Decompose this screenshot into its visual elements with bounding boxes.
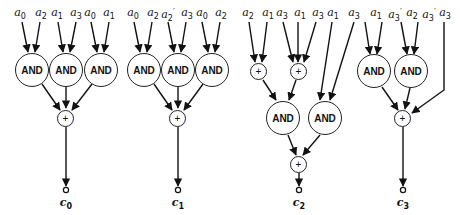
input-label: a3′ — [422, 6, 435, 23]
input-label: a2 — [406, 6, 418, 21]
and-gate: AND — [49, 53, 83, 87]
input-label: a3′ — [388, 6, 401, 23]
xor-gate: + — [169, 110, 186, 127]
input-label: a2 — [35, 6, 47, 21]
input-label: a3 — [348, 6, 360, 21]
input-label: a0 — [84, 6, 96, 21]
input-label: a1 — [370, 6, 382, 21]
and-gate: AND — [357, 54, 391, 88]
input-label: a1 — [327, 6, 339, 21]
and-gate: AND — [308, 101, 342, 135]
input-label: a1 — [262, 6, 274, 21]
input-label: a3 — [439, 6, 451, 21]
input-label: a3 — [70, 6, 82, 21]
xor-gate: + — [290, 63, 307, 80]
input-label: a2 — [242, 6, 254, 21]
input-label: a3 — [276, 6, 288, 21]
and-gate: AND — [15, 53, 49, 87]
input-label: a0 — [127, 6, 139, 21]
input-label: a1 — [103, 6, 115, 21]
input-label: a1 — [294, 6, 306, 21]
and-gate: AND — [127, 53, 161, 87]
and-gate: AND — [195, 53, 229, 87]
output-label: c2 — [293, 196, 305, 211]
logic-diagram: a0 a2 a1 a3 a0 a1 a0 a2 a2′ a3 a0 a2 a2 … — [0, 0, 460, 215]
xor-gate: + — [250, 63, 267, 80]
input-label: a2 — [147, 6, 159, 21]
input-label: a2′ — [161, 6, 174, 23]
output-label: c3 — [397, 196, 409, 211]
input-label: a0 — [14, 6, 26, 21]
and-gate: AND — [394, 54, 428, 88]
xor-gate: + — [57, 110, 74, 127]
and-gate: AND — [161, 53, 195, 87]
wires — [0, 0, 460, 215]
input-label: a1 — [51, 6, 63, 21]
input-label: a0 — [196, 6, 208, 21]
input-label: a3 — [181, 6, 193, 21]
input-label: a2 — [215, 6, 227, 21]
xor-gate: + — [394, 110, 411, 127]
xor-gate: + — [290, 156, 307, 173]
and-gate: AND — [266, 101, 300, 135]
output-label: c1 — [172, 196, 184, 211]
output-label: c0 — [60, 196, 72, 211]
input-label: a3 — [312, 6, 324, 21]
and-gate: AND — [84, 53, 118, 87]
